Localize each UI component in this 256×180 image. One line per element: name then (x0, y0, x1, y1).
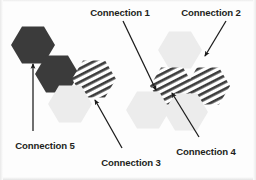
hexagon-layer (11, 27, 230, 131)
hex-light-top-right (158, 32, 202, 69)
arrow-connection-2 (205, 21, 226, 56)
label-connection-2: Connection 2 (181, 8, 241, 18)
diagram-canvas: Connection 1Connection 2Connection 3Conn… (0, 0, 256, 180)
arrow-connection-1 (123, 21, 156, 90)
arrow-connection-3 (95, 100, 122, 148)
label-connection-3: Connection 3 (101, 158, 161, 168)
label-connection-4: Connection 4 (176, 147, 236, 157)
label-connection-5: Connection 5 (15, 141, 75, 151)
label-connection-1: Connection 1 (90, 8, 150, 18)
